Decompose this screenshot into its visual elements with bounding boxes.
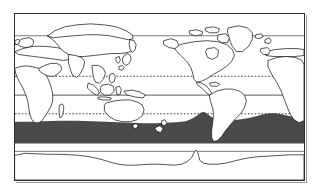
map-canvas [15,14,304,180]
iberia-landmass [260,48,270,55]
borneo-island [100,84,114,95]
world-map-figure [14,13,305,181]
java-island [98,97,111,100]
sulawesi-island [116,86,121,95]
figure-page [0,0,318,189]
british-isles [15,39,20,44]
